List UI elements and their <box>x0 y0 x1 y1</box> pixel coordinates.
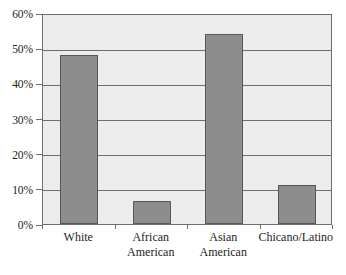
bars-group <box>43 15 331 224</box>
x-axis-category-label-line: American <box>200 245 247 260</box>
bar <box>133 201 171 224</box>
y-axis-tick-label: 40% <box>12 78 33 90</box>
x-axis-category-label: AsianAmerican <box>200 230 247 260</box>
bar <box>278 185 316 224</box>
x-axis-category-label-line: American <box>127 245 174 260</box>
y-axis-tick-label: 30% <box>12 114 33 126</box>
bar-chart-figure: 0%10%20%30%40%50%60% WhiteAfricanAmerica… <box>0 0 346 275</box>
bar <box>60 55 98 224</box>
x-axis-tick-mark <box>42 225 43 229</box>
plot-area <box>42 14 332 225</box>
x-axis-category-label-line: Asian <box>200 230 247 245</box>
x-axis-tick-mark <box>332 225 333 229</box>
x-axis-category-label: White <box>64 230 93 245</box>
bar <box>205 34 243 224</box>
y-axis-tick-label: 0% <box>18 219 33 231</box>
y-axis-tick-label: 60% <box>12 8 33 20</box>
x-axis-category-label-line: White <box>64 230 93 245</box>
x-axis-category-label: Chicano/Latino <box>258 230 333 245</box>
x-axis-tick-mark <box>187 225 188 229</box>
x-axis-category-label: AfricanAmerican <box>127 230 174 260</box>
y-axis-tick-label: 50% <box>12 43 33 55</box>
y-axis-tick-label: 10% <box>12 184 33 196</box>
x-axis-category-label-line: African <box>127 230 174 245</box>
y-axis-tick-label: 20% <box>12 149 33 161</box>
x-axis-category-label-line: Chicano/Latino <box>258 230 333 245</box>
x-axis-tick-mark <box>260 225 261 229</box>
x-axis-tick-mark <box>115 225 116 229</box>
x-axis: WhiteAfricanAmericanAsianAmericanChicano… <box>42 228 332 274</box>
y-axis: 0%10%20%30%40%50%60% <box>0 0 42 275</box>
